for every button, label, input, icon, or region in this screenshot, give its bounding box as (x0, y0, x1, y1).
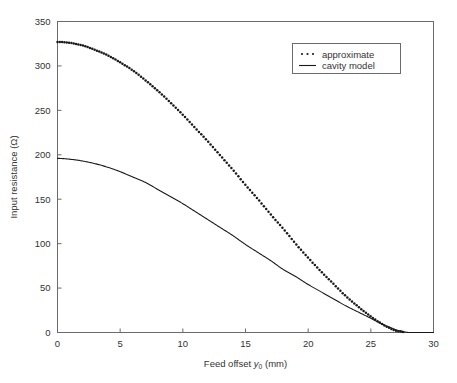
series-dot (98, 50, 101, 53)
series-dot (77, 43, 80, 46)
series-dot (290, 238, 293, 241)
series-dot (130, 68, 133, 71)
legend-label-cavity-model: cavity model (322, 60, 375, 71)
x-tick-label: 20 (303, 338, 314, 349)
series-dot (135, 72, 138, 75)
series-dot (195, 128, 198, 131)
series-dot (386, 325, 389, 328)
series-dot (283, 229, 286, 232)
series-dot (93, 48, 96, 51)
y-tick-label: 200 (35, 149, 51, 160)
series-dot (260, 202, 263, 205)
series-dot (133, 70, 136, 73)
series-dot (209, 143, 212, 146)
series-dot (369, 315, 372, 318)
series-dot (339, 290, 342, 293)
series-dot (91, 48, 94, 51)
series-dot (323, 273, 326, 276)
series-dot (219, 154, 222, 157)
series-dot (142, 77, 145, 80)
series-dot (246, 186, 249, 189)
series-dot (154, 87, 157, 90)
series-dot (75, 43, 78, 46)
series-dot (147, 81, 150, 84)
chart-legend[interactable]: approximate cavity model (293, 44, 401, 74)
series-dot (341, 292, 344, 295)
series-dot (288, 235, 291, 238)
series-dot (119, 61, 122, 64)
series-dot (372, 317, 375, 320)
series-dot (376, 320, 379, 323)
series-dot (128, 67, 131, 70)
series-dot (63, 41, 66, 44)
series-dot (107, 54, 110, 57)
x-tick-label: 10 (178, 338, 189, 349)
series-dot (137, 74, 140, 77)
series-dot (200, 133, 203, 136)
series-dot (72, 42, 75, 45)
y-tick-label: 100 (35, 238, 51, 249)
series-dot (207, 141, 210, 144)
series-dot (177, 109, 180, 112)
series-dot (103, 52, 106, 55)
x-tick-label: 30 (428, 338, 439, 349)
series-dot (281, 226, 284, 229)
series-dot (318, 269, 321, 272)
series-dot (121, 62, 124, 65)
series-dot (193, 126, 196, 128)
series-dot (239, 178, 242, 181)
series-dot (181, 113, 184, 116)
series-dot (158, 91, 161, 94)
series-dot (316, 266, 319, 269)
series-dot (295, 243, 298, 246)
series-dot (314, 264, 317, 267)
series-dot (82, 44, 85, 47)
series-dot (263, 205, 266, 208)
series-dot (362, 310, 365, 313)
series-dot (388, 327, 391, 330)
chart-figure: 051015202530 050100150200250300350 Feed … (0, 0, 457, 383)
x-tick-label: 0 (55, 338, 60, 349)
series-dot (293, 240, 296, 243)
series-dot (168, 100, 171, 103)
y-tick-label: 150 (35, 194, 51, 205)
series-dot (381, 323, 384, 326)
series-dot (66, 41, 69, 44)
series-dot (297, 246, 300, 249)
series-dot (365, 312, 368, 315)
series-dot (202, 136, 205, 139)
x-tick-label: 15 (240, 338, 251, 349)
series-dot (397, 330, 400, 333)
series-dot (307, 256, 310, 259)
series-dot (249, 189, 252, 192)
series-dot (272, 216, 275, 219)
series-dot (144, 79, 147, 82)
series-dot (59, 41, 62, 44)
series-dot (244, 184, 247, 187)
y-tick-label: 0 (45, 327, 50, 338)
series-dot (223, 159, 226, 162)
input-resistance-chart: 051015202530 050100150200250300350 Feed … (0, 0, 457, 383)
series-dot (277, 221, 280, 224)
series-dot (149, 83, 152, 86)
series-dot (344, 294, 347, 297)
series-dot (237, 175, 240, 178)
series-dot (330, 280, 333, 283)
series-dot (226, 162, 229, 165)
series-dot (156, 89, 159, 92)
series-dot (140, 75, 143, 78)
series-dot (304, 254, 307, 257)
series-dot (253, 194, 256, 197)
series-dot (117, 60, 120, 63)
series-dot (383, 324, 386, 327)
series-dot (256, 197, 259, 200)
series-dot (242, 181, 245, 184)
series-dot (265, 208, 268, 211)
series-dot (334, 285, 337, 288)
series-dot (395, 330, 398, 333)
series-dot (191, 123, 194, 126)
series-dot (332, 283, 335, 286)
series-dot (161, 93, 164, 96)
series-dot (274, 219, 277, 222)
series-dot (230, 167, 233, 170)
